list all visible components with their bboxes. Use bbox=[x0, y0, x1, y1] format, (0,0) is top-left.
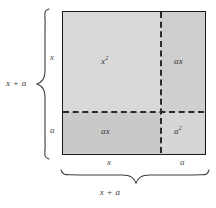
horizontal-dashed-divider bbox=[63, 111, 204, 113]
dimension-label-width: x + a bbox=[100, 187, 121, 197]
vertical-dashed-divider bbox=[160, 12, 162, 153]
edge-label-bottom-left: x bbox=[107, 157, 111, 167]
quadrant-bottom-left bbox=[63, 112, 161, 153]
area-label-ax-bottom-left-base: ax bbox=[101, 126, 110, 136]
edge-label-bottom-right: a bbox=[180, 157, 185, 167]
quadrant-top-left bbox=[63, 12, 161, 112]
square-outline: x2 ax ax a2 bbox=[62, 11, 206, 155]
area-label-ax-top-right: ax bbox=[174, 56, 183, 66]
left-brace-icon bbox=[30, 6, 52, 162]
area-label-x-squared: x2 bbox=[101, 56, 108, 66]
quadrant-bottom-right bbox=[161, 112, 204, 153]
dimension-label-height: x + a bbox=[6, 78, 27, 88]
area-label-ax-bottom-left: ax bbox=[101, 126, 110, 136]
area-label-ax-top-right-base: ax bbox=[174, 56, 183, 66]
area-label-a-squared: a2 bbox=[174, 126, 182, 136]
area-label-x-squared-exponent: 2 bbox=[105, 55, 108, 61]
algebra-area-diagram: x2 ax ax a2 x a x a x + a x + a bbox=[0, 0, 216, 208]
bottom-brace-icon bbox=[58, 168, 210, 188]
area-label-a-squared-exponent: 2 bbox=[179, 125, 182, 131]
